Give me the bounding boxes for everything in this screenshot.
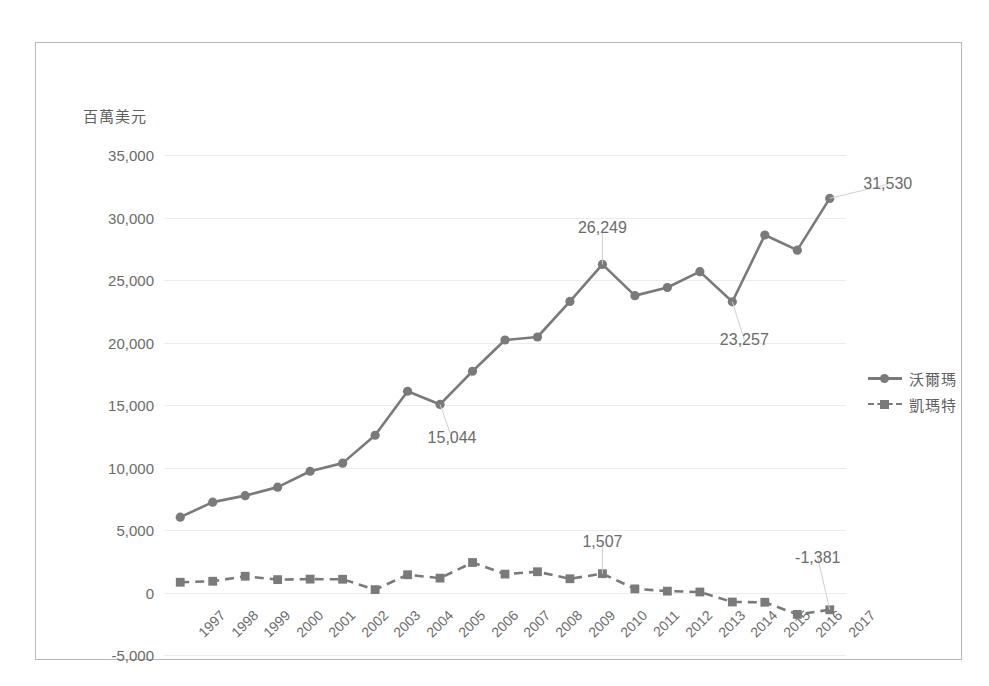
data-point (273, 483, 282, 492)
data-point (338, 575, 347, 584)
series-line-沃爾瑪 (180, 198, 830, 517)
data-point (533, 332, 542, 341)
data-point (403, 570, 412, 579)
legend-item-沃爾瑪[interactable]: 沃爾瑪 (868, 365, 957, 391)
data-point (371, 431, 380, 440)
data-point (436, 574, 445, 583)
data-label: 31,530 (863, 175, 912, 193)
legend-square-marker-icon (868, 398, 902, 410)
data-point (631, 584, 640, 593)
legend-label: 沃爾瑪 (909, 368, 957, 389)
y-axis-tick-label: 15,000 (108, 397, 154, 414)
data-point (371, 585, 380, 594)
data-point (695, 588, 704, 597)
data-point (306, 467, 315, 476)
data-label: 1,507 (582, 533, 622, 551)
data-point (208, 498, 217, 507)
data-point (760, 230, 769, 239)
plot-area: 35,00030,00025,00020,00015,00010,0005,00… (164, 155, 846, 655)
data-point (663, 283, 672, 292)
data-point (468, 558, 477, 567)
legend-label: 凱瑪特 (909, 394, 957, 415)
data-point (241, 572, 250, 581)
data-point (176, 513, 185, 522)
data-point (728, 598, 737, 607)
data-point (273, 575, 282, 584)
y-axis-tick-label: 20,000 (108, 334, 154, 351)
y-axis-tick-label: 35,000 (108, 147, 154, 164)
data-point (825, 194, 834, 203)
data-point (663, 587, 672, 596)
data-point (630, 291, 639, 300)
data-point (403, 387, 412, 396)
y-axis-tick-label: 30,000 (108, 209, 154, 226)
data-point (176, 578, 185, 587)
data-point (793, 610, 802, 619)
data-label: 15,044 (428, 429, 477, 447)
data-point (695, 267, 704, 276)
legend-item-凱瑪特[interactable]: 凱瑪特 (868, 391, 957, 417)
data-point (793, 246, 802, 255)
y-axis-tick-label: 10,000 (108, 459, 154, 476)
legend: 沃爾瑪凱瑪特 (868, 365, 957, 417)
data-point (566, 574, 575, 583)
data-point (241, 491, 250, 500)
data-point (565, 297, 574, 306)
data-point (760, 598, 769, 607)
data-point (306, 575, 315, 584)
data-point (533, 567, 542, 576)
data-point (338, 459, 347, 468)
y-axis-tick-label: 5,000 (116, 522, 154, 539)
y-axis-tick-label: 0 (146, 584, 154, 601)
data-point (435, 400, 444, 409)
data-point (501, 570, 510, 579)
data-point (468, 367, 477, 376)
chart-frame: 百萬美元 35,00030,00025,00020,00015,00010,00… (35, 42, 962, 660)
y-axis-title: 百萬美元 (83, 105, 147, 126)
gridline (164, 655, 846, 656)
data-label: -1,381 (795, 549, 840, 567)
y-axis-tick-label: -5,000 (111, 647, 154, 664)
series-lines (164, 155, 846, 655)
data-label: 26,249 (578, 219, 627, 237)
legend-circle-marker-icon (868, 372, 902, 384)
data-label: 23,257 (720, 331, 769, 349)
y-axis-tick-label: 25,000 (108, 272, 154, 289)
data-point (208, 577, 217, 586)
x-axis-tick-label: 2017 (845, 607, 878, 640)
data-point (500, 335, 509, 344)
